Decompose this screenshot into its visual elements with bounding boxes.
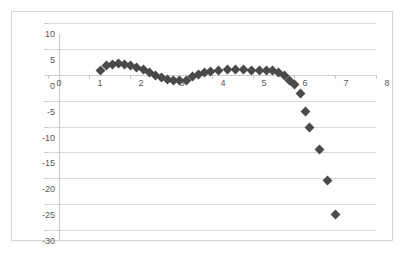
plot-area: [59, 34, 387, 241]
data-point: [290, 80, 300, 90]
data-point: [300, 106, 310, 116]
y-tick-label: -5: [25, 108, 55, 117]
data-point: [331, 210, 341, 220]
data-point: [314, 144, 324, 154]
y-tick-label: 5: [25, 56, 55, 65]
y-tick-mark-10: [44, 23, 48, 24]
chart-frame: 1050-5-10-15-20-25-30 012345678: [11, 11, 393, 241]
y-tick-label: -25: [25, 211, 55, 220]
y-axis-labels: 1050-5-10-15-20-25-30: [23, 34, 55, 241]
data-point: [295, 89, 305, 99]
data-point: [304, 122, 314, 132]
scatter-chart: 1050-5-10-15-20-25-30 012345678: [0, 0, 406, 255]
y-tick-label: -20: [25, 185, 55, 194]
data-point: [323, 176, 333, 186]
y-tick-label: -30: [25, 237, 55, 246]
gridline-y-10: [48, 23, 376, 24]
y-tick-label: 10: [25, 30, 55, 39]
y-tick-label: -15: [25, 159, 55, 168]
y-tick-label: -10: [25, 134, 55, 143]
